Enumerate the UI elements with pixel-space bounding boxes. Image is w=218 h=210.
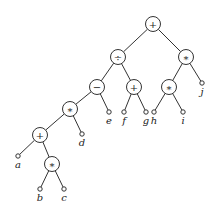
operator-node: * [162,80,177,95]
leaf-marker [107,110,111,114]
leaf-label: h [151,115,157,126]
tree-edge [101,63,113,81]
operator-symbol: * [50,161,55,172]
leaf-node: g [143,110,149,126]
operator-node: − [90,80,105,95]
operator-node: * [179,50,194,65]
tree-nodes: +÷*−+**+*abcdefghij [15,17,204,204]
leaf-label: c [61,192,67,203]
tree-edge [20,140,35,154]
operator-node: + [146,17,161,32]
tree-edge [158,29,180,51]
leaf-marker [181,110,185,114]
leaf-marker [80,132,84,136]
leaf-label: d [79,137,85,148]
leaf-marker [122,110,126,114]
tree-edge [125,94,131,110]
leaf-node: e [106,110,112,126]
leaf-marker [62,187,66,191]
tree-edge [43,142,49,157]
operator-symbol: + [36,130,44,141]
tree-edge [46,114,65,130]
leaf-label: f [121,115,128,126]
leaf-label: b [37,192,43,203]
tree-edge [137,94,145,110]
tree-edge [122,64,131,81]
leaf-marker [152,110,156,114]
operator-symbol: * [184,54,189,65]
leaf-node: d [79,132,85,148]
tree-edge [55,171,63,187]
tree-edge [76,92,91,105]
tree-edge [155,93,165,110]
leaf-marker [38,187,42,191]
leaf-node: a [15,154,21,170]
leaf-label: i [181,115,184,126]
leaf-node: b [37,187,43,203]
leaf-label: g [143,115,149,126]
tree-edge [190,63,201,81]
operator-node: + [33,128,48,143]
leaf-marker [16,154,20,158]
leaf-node: j [198,81,204,97]
expression-tree-diagram: +÷*−+**+*abcdefghij [0,0,218,210]
operator-symbol: + [149,19,157,30]
tree-edge [73,116,81,132]
operator-symbol: * [167,84,172,95]
leaf-marker [144,110,148,114]
operator-node: * [63,102,78,117]
operator-symbol: * [68,106,73,117]
leaf-node: i [181,110,185,126]
tree-edge [123,29,147,52]
leaf-marker [200,81,204,85]
tree-edge [173,94,182,111]
leaf-label: a [15,159,21,170]
operator-symbol: + [130,82,138,93]
leaf-label: e [106,115,112,126]
tree-edge [173,64,183,81]
tree-edge [41,171,49,187]
operator-node: + [127,80,142,95]
leaf-node: h [151,110,157,126]
operator-symbol: ÷ [114,52,122,63]
leaf-node: c [61,187,67,203]
operator-node: ÷ [111,50,126,65]
leaf-node: f [121,110,128,126]
operator-node: * [45,157,60,172]
leaf-label: j [198,86,203,97]
operator-symbol: − [93,82,101,93]
tree-edge [100,94,108,110]
